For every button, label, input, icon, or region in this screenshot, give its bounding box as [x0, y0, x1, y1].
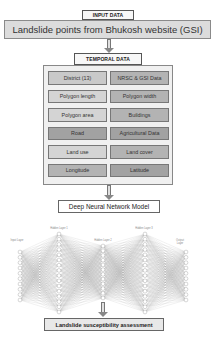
landslide-susceptibility-output: Landslide susceptibility assessment: [44, 318, 164, 331]
neural-network-diagram: [0, 0, 216, 346]
layer-label-hidden-3: Hidden Layer 3: [129, 227, 159, 230]
layer-label-output: Output Layer: [173, 239, 187, 245]
layer-label-input: Input Layer: [10, 239, 24, 242]
layer-label-hidden-1: Hidden Layer 1: [44, 227, 74, 230]
layer-label-hidden-2: Hidden Layer 2: [88, 239, 118, 242]
arrow-down-icon: [98, 302, 108, 317]
